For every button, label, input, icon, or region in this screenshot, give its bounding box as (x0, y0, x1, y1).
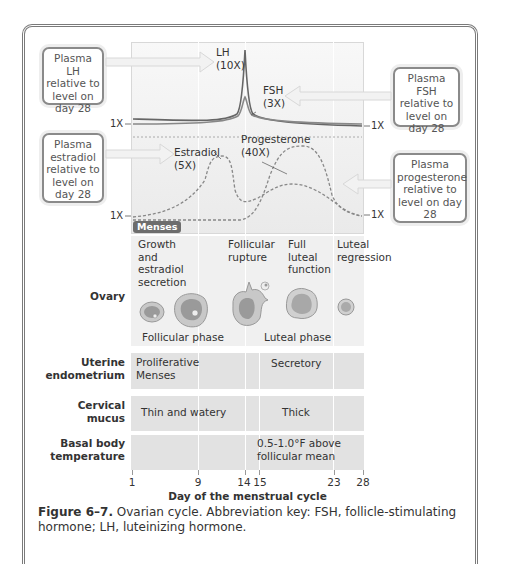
fsh-label: FSH(3X) (263, 84, 285, 109)
baseline-label-bottom-left: 1X (110, 210, 123, 221)
tick-label-1: 1 (129, 476, 136, 488)
proliferative-text: Proliferative (136, 356, 199, 368)
estradiol-label-text: Estradiol (174, 146, 220, 158)
tick-label-28: 28 (356, 476, 369, 488)
row-label-basal-line2: temperature (50, 450, 125, 462)
row-label-basal: Basal bodytemperature (50, 437, 125, 463)
basal-value-label: 0.5-1.0°F abovefollicular mean (257, 437, 341, 462)
luteal-phase-label: Luteal phase (264, 331, 331, 344)
figure-caption: Figure 6–7. Ovarian cycle. Abbreviation … (38, 505, 478, 535)
thin-watery-label: Thin and watery (141, 406, 226, 419)
corpus-albicans-icon (338, 299, 354, 315)
lh-fold-text: (10X) (216, 59, 245, 71)
row-label-basal-line1: Basal body (60, 437, 125, 449)
tick-label-9: 9 (195, 476, 202, 488)
event-luteal-regression: Luteal regression (337, 238, 387, 263)
tick-day-1 (132, 470, 133, 475)
lh-label-text: LH (216, 46, 230, 58)
basal-value-line1: 0.5-1.0°F above (257, 437, 341, 449)
menses-badge: Menses (133, 221, 181, 233)
follicular-phase-label: Follicular phase (142, 331, 224, 344)
corpus-luteum-icon (286, 288, 317, 318)
progesterone-fold-text: (40X) (241, 146, 270, 158)
ovary-rupture-icon (233, 282, 269, 325)
baseline-label-top-left: 1X (110, 118, 123, 129)
progesterone-label: Progesterone(40X) (241, 133, 310, 158)
fsh-label-text: FSH (263, 84, 283, 96)
thick-label: Thick (282, 406, 310, 419)
fsh-fold-text: (3X) (263, 97, 285, 109)
event-luteal-function: Full luteal function (288, 238, 328, 276)
estradiol-label: Estradiol(5X) (174, 146, 220, 171)
tick-day-28 (363, 470, 364, 475)
row-label-ovary: Ovary (90, 290, 125, 303)
secretory-label: Secretory (271, 357, 322, 370)
ovary-follicle-small-icon (140, 302, 164, 322)
x-axis-label: Day of the menstrual cycle (131, 490, 364, 502)
basal-value-line2: follicular mean (257, 450, 335, 462)
event-growth: Growth and estradiol secretion (138, 238, 198, 288)
event-rupture: Follicular rupture (228, 238, 276, 263)
caption-figure-number: Figure 6–7. (38, 505, 113, 519)
baseline-label-top-right: 1X (371, 120, 384, 131)
tick-day-15 (259, 470, 260, 475)
uterine-menses-text: Menses (136, 369, 176, 381)
tick-label-14: 14 (237, 476, 250, 488)
row-label-uterine: Uterineendometrium (45, 356, 125, 382)
ovary-follicle-large-icon (175, 294, 208, 327)
row-label-cervical-line1: Cervical (78, 399, 125, 411)
tick-label-23: 23 (327, 476, 340, 488)
estradiol-fold-text: (5X) (174, 159, 196, 171)
progesterone-label-text: Progesterone (241, 133, 310, 145)
lh-label: LH(10X) (216, 46, 245, 71)
proliferative-label: ProliferativeMenses (136, 356, 199, 381)
row-label-cervical: Cervicalmucus (78, 399, 125, 425)
tick-day-14 (245, 470, 246, 475)
tick-day-23 (334, 470, 335, 475)
row-label-cervical-line2: mucus (87, 412, 125, 424)
row-label-uterine-line2: endometrium (45, 369, 125, 381)
tick-label-15: 15 (253, 476, 266, 488)
row-label-uterine-line1: Uterine (81, 356, 125, 368)
baseline-label-bottom-right: 1X (371, 209, 384, 220)
tick-day-9 (198, 470, 199, 475)
